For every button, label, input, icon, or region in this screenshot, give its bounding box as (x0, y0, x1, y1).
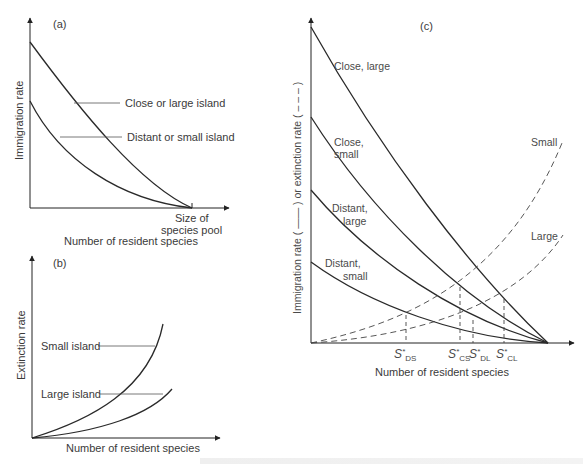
svg-text:S*DL: S*DL (469, 347, 491, 363)
panel-a-xlabel: Number of resident species (64, 235, 198, 247)
equilibrium-label-dl: S*DL (469, 347, 491, 363)
panel-b-ylabel: Extinction rate (15, 310, 27, 380)
small-extinction-curve (311, 143, 562, 343)
close-small-label-2: small (334, 148, 359, 160)
pool-label-1: Size of (175, 212, 210, 224)
distant-small-label-2: small (343, 270, 368, 282)
small-extinction-label: Small (531, 136, 557, 148)
panel-a-ylabel: Immigration rate (13, 81, 25, 160)
distant-or-small-curve (30, 101, 192, 208)
equilibrium-label-ds: S*DS (394, 347, 416, 363)
large-extinction-curve (311, 235, 563, 343)
panel-c-xlabel: Number of resident species (375, 366, 509, 378)
small-island-label: Small island (41, 340, 100, 352)
clipped-caption (200, 458, 583, 464)
distant-large-label-1: Distant, (332, 202, 368, 214)
large-extinction-label: Large (531, 230, 558, 242)
equilibrium-label-cl: S*CL (496, 347, 518, 363)
close-small-label-1: Close, (334, 136, 364, 148)
panel-a (30, 18, 229, 208)
svg-text:S*CL: S*CL (496, 347, 518, 363)
large-island-label: Large island (41, 388, 101, 400)
panel-c-label: (c) (420, 20, 433, 32)
panel-b-xlabel: Number of resident species (66, 442, 200, 454)
island-biogeography-figure: (a) Immigration rate Close or large isla… (0, 0, 583, 467)
svg-text:S*CS: S*CS (448, 347, 470, 363)
close-large-label: Close, large (334, 60, 390, 72)
close-large-curve (311, 27, 548, 343)
panel-c-ylabel: Immigration rate ( —— ) or extinction ra… (291, 82, 303, 314)
close-or-large-label: Close or large island (125, 97, 225, 109)
distant-or-small-label: Distant or small island (127, 131, 235, 143)
svg-text:S*DS: S*DS (394, 347, 416, 363)
equilibrium-label-cs: S*CS (448, 347, 470, 363)
panel-b-label: (b) (53, 257, 66, 269)
distant-small-label-1: Distant, (325, 257, 361, 269)
distant-large-label-2: large (343, 215, 367, 227)
panel-a-label: (a) (53, 18, 66, 30)
